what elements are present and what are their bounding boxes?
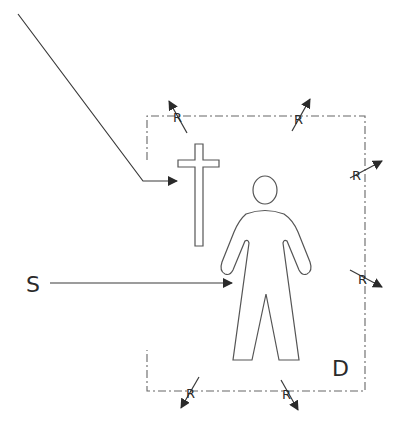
r-label: R: [173, 110, 182, 125]
source-label: S: [26, 272, 40, 297]
pointer-arrow-to-cross: [18, 14, 177, 181]
r-arrow-right-lower: R: [350, 270, 382, 287]
r-arrow-bottom-right: R: [281, 380, 298, 410]
cross-icon: [178, 144, 219, 246]
r-arrow-right-upper: R: [350, 161, 382, 183]
r-arrow-top-left: R: [169, 101, 187, 133]
r-label: R: [186, 386, 195, 401]
r-label: R: [294, 112, 303, 127]
diagram-canvas: S D R R R R R R: [0, 0, 405, 439]
r-label: R: [282, 387, 291, 402]
enclosure-label: D: [332, 356, 349, 381]
r-label: R: [358, 272, 367, 287]
person-icon: [221, 176, 311, 360]
r-label: R: [352, 168, 361, 183]
r-arrow-bottom-left: R: [181, 377, 199, 408]
r-arrow-top-right: R: [292, 99, 310, 131]
